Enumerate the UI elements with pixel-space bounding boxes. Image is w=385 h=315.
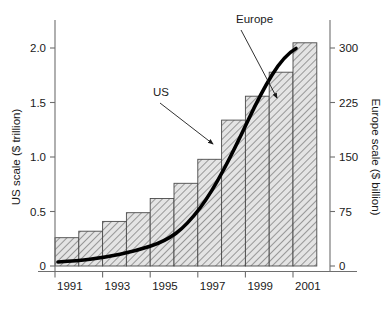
bar-1993 [103, 221, 127, 266]
left-tick-label-0.5: 0.5 [30, 206, 46, 218]
left-axis-title: US scale ($ trillion) [10, 109, 22, 206]
x-tick-label-1997: 1997 [200, 280, 226, 292]
x-tick-label-2001: 2001 [295, 280, 321, 292]
annotation-us-label: US [153, 86, 169, 98]
x-tick-label-1999: 1999 [247, 280, 273, 292]
bar-2000 [269, 72, 293, 266]
x-tick-label-1991: 1991 [57, 280, 83, 292]
left-tick-label-1.5: 1.5 [30, 97, 46, 109]
chart-canvas: 2.0 1.5 1.0 0.5 0 US scale ($ trillion) … [0, 0, 385, 315]
right-tick-label-0: 0 [339, 260, 345, 272]
bar-1997 [198, 159, 222, 266]
x-tick-label-1993: 1993 [105, 280, 131, 292]
annotation-europe-label: Europe [236, 13, 273, 25]
left-tick-label-1.0: 1.0 [30, 151, 46, 163]
right-tick-label-150: 150 [339, 151, 358, 163]
right-tick-label-75: 75 [339, 206, 352, 218]
bar-2001 [293, 43, 317, 266]
bar-1994 [126, 213, 150, 266]
right-tick-label-300: 300 [339, 42, 358, 54]
chart-container: 2.0 1.5 1.0 0.5 0 US scale ($ trillion) … [0, 0, 385, 315]
chart-background [0, 0, 385, 315]
right-tick-label-225: 225 [339, 97, 358, 109]
left-tick-label-2.0: 2.0 [30, 42, 46, 54]
left-tick-label-0: 0 [40, 260, 46, 272]
bar-1998 [222, 120, 246, 266]
bar-1995 [150, 199, 174, 267]
right-axis-title: Europe scale ($ billion) [370, 99, 382, 216]
x-tick-label-1995: 1995 [152, 280, 178, 292]
